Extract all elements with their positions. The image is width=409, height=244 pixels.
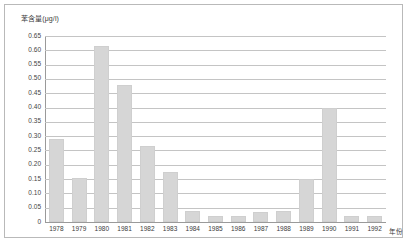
bar [322,108,337,222]
bar [185,211,200,222]
x-tick-label: 1991 [341,226,364,233]
x-tick-label: 1980 [90,226,113,233]
bar [344,216,359,222]
y-tick-label: 0.40 [19,104,41,111]
y-tick-label: 0.15 [19,176,41,183]
bar [253,212,268,222]
y-tick-label: 0.05 [19,204,41,211]
bar [367,216,382,222]
x-tick-label: 1981 [113,226,136,233]
y-tick-label: 0.25 [19,147,41,154]
bar [163,172,178,222]
bar [117,85,132,222]
x-tick-label: 1978 [45,226,68,233]
y-tick-label: 0.55 [19,61,41,68]
y-tick-label: 0.20 [19,161,41,168]
x-tick-label: 1985 [204,226,227,233]
bar [49,139,64,222]
gridline [45,222,386,223]
x-tick-label: 1992 [363,226,386,233]
y-tick-label: 0.60 [19,47,41,54]
gridline [45,36,386,37]
x-tick-label: 1982 [136,226,159,233]
y-axis-tick-labels: 0.650.600.550.500.450.400.350.300.250.20… [17,36,41,222]
plot-area [45,36,386,222]
x-tick-label: 1988 [272,226,295,233]
x-tick-label: 1989 [295,226,318,233]
y-axis-caption: 苯含量(μg/l) [21,13,59,23]
bar [231,216,246,222]
bar [94,46,109,222]
x-tick-label: 1986 [227,226,250,233]
bar [276,211,291,222]
x-tick-label: 1990 [318,226,341,233]
bar [140,146,155,222]
y-tick-label: 0.10 [19,190,41,197]
y-tick-label: 0.45 [19,90,41,97]
bar [299,179,314,222]
x-tick-label: 1984 [181,226,204,233]
x-tick-label: 1983 [159,226,182,233]
chart-figure: 苯含量(μg/l) 0.650.600.550.500.450.400.350.… [4,4,403,238]
y-tick-label: 0.35 [19,118,41,125]
y-tick-label: 0.30 [19,133,41,140]
y-tick-label: 0 [19,219,41,226]
x-tick-label: 1979 [68,226,91,233]
x-tick-label: 1987 [250,226,273,233]
x-axis-tick-labels: 1978197919801981198219831984198519861987… [45,226,386,240]
bar [208,216,223,222]
bar [72,178,87,222]
y-tick-label: 0.65 [19,33,41,40]
y-tick-label: 0.50 [19,75,41,82]
x-axis-caption: 年份 [389,226,403,236]
